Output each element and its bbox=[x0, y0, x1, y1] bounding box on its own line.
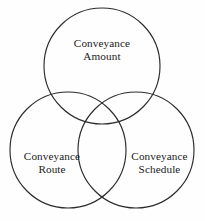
venn-label-amount-line1: Conveyance bbox=[52, 37, 152, 50]
venn-label-schedule-line1: Conveyance bbox=[117, 150, 202, 163]
venn-label-conveyance-amount: Conveyance Amount bbox=[52, 37, 152, 63]
venn-label-schedule-line2: Schedule bbox=[117, 163, 202, 176]
venn-circle-conveyance-amount bbox=[44, 8, 160, 124]
venn-diagram: Conveyance Amount Conveyance Route Conve… bbox=[0, 0, 205, 221]
venn-circles-graphic bbox=[0, 0, 205, 221]
venn-label-route-line2: Route bbox=[11, 163, 93, 176]
venn-label-conveyance-schedule: Conveyance Schedule bbox=[117, 150, 202, 176]
venn-label-route-line1: Conveyance bbox=[11, 150, 93, 163]
venn-label-conveyance-route: Conveyance Route bbox=[11, 150, 93, 176]
venn-label-amount-line2: Amount bbox=[52, 50, 152, 63]
